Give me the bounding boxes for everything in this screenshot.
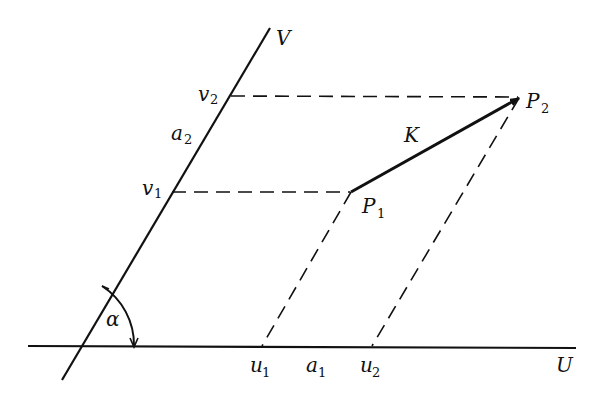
dashed-p1-u1 [262,192,351,346]
svg-text:u: u [250,353,263,377]
dashed-p2-u2 [372,98,519,346]
oblique-coordinate-diagram: V U α K P 1 P 2 u 1 a 1 u 2 v 1 a 2 v 2 [0,0,604,403]
point-p2-label: P 2 [525,89,549,116]
svg-text:2: 2 [210,92,218,107]
svg-text:2: 2 [372,365,380,380]
svg-text:v: v [142,176,154,200]
svg-text:P: P [525,89,540,113]
u-axis-label: U [556,353,574,377]
svg-text:1: 1 [318,365,326,380]
u-axis [28,346,576,348]
svg-text:v: v [198,82,210,106]
vector-k-arrow [351,98,519,192]
svg-text:P: P [361,194,376,218]
svg-text:1: 1 [377,206,385,221]
tick-a1-label: a 1 [306,353,326,380]
svg-text:2: 2 [541,101,549,116]
svg-text:1: 1 [154,186,162,201]
svg-text:1: 1 [262,365,270,380]
tick-a2-label: a 2 [171,121,192,147]
tick-u2-label: u 2 [360,353,380,380]
svg-text:a: a [171,121,183,145]
v-axis-label: V [276,26,293,50]
tick-v1-label: v 1 [142,176,162,201]
tick-u1-label: u 1 [250,353,270,380]
svg-text:u: u [360,353,373,377]
dashed-v2-p2 [231,96,518,97]
svg-text:2: 2 [184,132,192,147]
tick-v2-label: v 2 [198,82,218,107]
vector-k-label: K [403,123,420,147]
v-axis [62,28,270,380]
angle-alpha-label: α [106,307,120,331]
svg-text:a: a [306,353,318,377]
point-p1-label: P 1 [361,194,385,221]
